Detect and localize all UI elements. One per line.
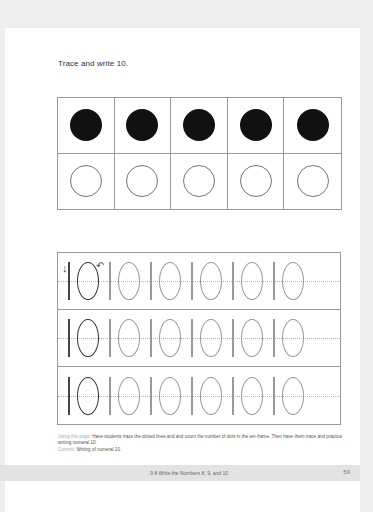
arrow-down-icon: ↓ (62, 263, 68, 274)
empty-circle-icon (70, 165, 102, 197)
page-footer: 3-8 Write the Numbers 8, 9, and 10 59 (0, 465, 360, 481)
traceable-numeral-10 (68, 319, 99, 357)
ten-frame-cell (115, 98, 172, 154)
ten-frame-cell (58, 154, 115, 210)
traceable-numeral-10 (68, 377, 99, 415)
ten-frame-cell (284, 154, 341, 210)
ten-frame-cell (58, 98, 115, 154)
traceable-numeral-10 (109, 262, 140, 300)
ten-frame-cell (228, 154, 285, 210)
traceable-numeral-10 (150, 319, 181, 357)
traceable-numeral-10: ↶ (68, 262, 99, 300)
note-label: Using this page: (58, 434, 91, 439)
ten-frame-cell (171, 154, 228, 210)
teacher-note: Using this page: Have students trace the… (58, 434, 348, 453)
instruction-text: Trace and write 10. (58, 59, 128, 68)
trace-row-3 (58, 367, 340, 424)
ten-frame-cell (171, 98, 228, 154)
page-number: 59 (343, 469, 350, 475)
traceable-numeral-10 (150, 377, 181, 415)
filled-dot-icon (240, 109, 272, 141)
traceable-numeral-10 (191, 262, 222, 300)
commit-label: Commit: (58, 447, 75, 452)
empty-circle-icon (240, 165, 272, 197)
traceable-numeral-10 (109, 377, 140, 415)
traceable-numeral-10 (191, 319, 222, 357)
filled-dot-icon (70, 109, 102, 141)
trace-row-2 (58, 310, 340, 367)
empty-circle-icon (183, 165, 215, 197)
traceable-numeral-10 (232, 262, 263, 300)
commit-text: Writing of numeral 10. (76, 447, 121, 452)
ten-frame-cell (115, 154, 172, 210)
traceable-numeral-10 (273, 319, 304, 357)
tracing-box: ↓ ↶ (57, 252, 341, 425)
traceable-numeral-10 (273, 262, 304, 300)
traceable-numeral-10 (191, 377, 222, 415)
empty-circle-icon (126, 165, 158, 197)
note-text: Have students trace the dotted lines and… (58, 434, 342, 445)
traceable-numeral-10 (232, 377, 263, 415)
filled-dot-icon (183, 109, 215, 141)
traceable-numeral-10 (109, 319, 140, 357)
filled-dot-icon (297, 109, 329, 141)
curved-arrow-left-icon: ↶ (96, 261, 104, 271)
traceable-numeral-10 (150, 262, 181, 300)
traceable-numeral-10 (232, 319, 263, 357)
ten-frame (57, 97, 342, 210)
trace-row-1: ↓ ↶ (58, 253, 340, 310)
empty-circle-icon (297, 165, 329, 197)
ten-frame-cell (228, 98, 285, 154)
traceable-numeral-10 (273, 377, 304, 415)
ten-frame-cell (284, 98, 341, 154)
lesson-title: 3-8 Write the Numbers 8, 9, and 10 (150, 470, 228, 476)
filled-dot-icon (126, 109, 158, 141)
